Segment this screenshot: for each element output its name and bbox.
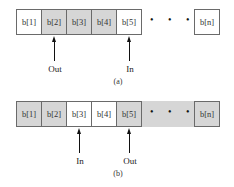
out-label: Out: [48, 64, 62, 74]
in-label: In: [76, 156, 84, 166]
cell-b3: b[3]: [66, 9, 92, 35]
cell-bn: b[n]: [194, 9, 220, 35]
out-label: Out: [123, 156, 137, 166]
cell-b1: b[1]: [16, 9, 42, 35]
in-label: In: [126, 64, 134, 74]
cell-b2: b[2]: [41, 9, 67, 35]
in-arrow-head-icon: [77, 128, 81, 134]
circular-buffer-figure: b[1] b[2] b[3] b[4] b[5] • • • • b[n] Ou…: [0, 0, 234, 187]
in-arrow: [129, 40, 130, 61]
out-arrow: [54, 40, 55, 61]
caption-b: (b): [113, 169, 122, 178]
cell-bn: b[n]: [194, 101, 220, 127]
out-arrow-head-icon: [127, 128, 131, 134]
cell-b1: b[1]: [16, 101, 42, 127]
cell-b5: b[5]: [116, 101, 142, 127]
cell-b3: b[3]: [66, 101, 92, 127]
in-arrow: [79, 132, 80, 153]
in-arrow-head-icon: [127, 36, 131, 42]
cell-b5: b[5]: [116, 9, 142, 35]
cell-b4: b[4]: [91, 9, 117, 35]
cell-b4: b[4]: [91, 101, 117, 127]
out-arrow-head-icon: [52, 36, 56, 42]
out-arrow: [129, 132, 130, 153]
caption-a: (a): [114, 77, 123, 86]
cell-b2: b[2]: [41, 101, 67, 127]
